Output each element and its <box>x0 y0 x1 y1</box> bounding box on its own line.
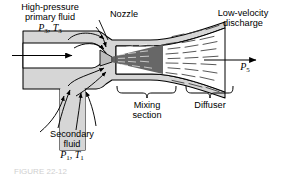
figure-caption: FIGURE 22-12 <box>0 167 288 174</box>
discharge-line1: Low-velocity <box>201 8 285 18</box>
discharge-line2: discharge <box>201 18 285 28</box>
nozzle-label: Nozzle <box>104 9 144 19</box>
secondary-inlet-line1: Secondary <box>36 129 108 139</box>
mixing-section-brace <box>117 86 176 98</box>
mixing-section-line1: Mixing <box>118 100 176 110</box>
figure-canvas: High-pressure primary fluid P3, T3 Nozzl… <box>0 0 288 174</box>
secondary-inlet-state: P1, T1 <box>36 150 108 163</box>
diffuser-label: Diffuser <box>185 100 235 110</box>
mixing-section-label: Mixing section <box>118 100 176 121</box>
primary-inlet-label: High-pressure primary fluid P3, T3 <box>4 2 96 36</box>
secondary-inlet-label: Secondary fluid P1, T1 <box>36 129 108 163</box>
mixing-section-line2: section <box>118 110 176 120</box>
primary-inlet-line1: High-pressure <box>4 2 96 12</box>
discharge-label: Low-velocity discharge <box>201 8 285 29</box>
discharge-pressure-symbol: P5 <box>233 62 257 75</box>
primary-inlet-state: P3, T3 <box>4 23 96 36</box>
